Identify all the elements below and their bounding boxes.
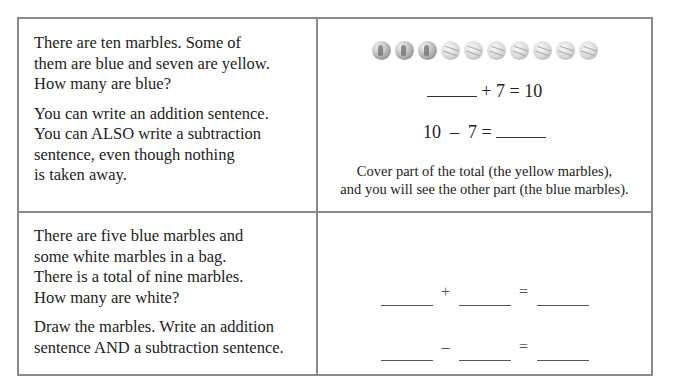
- text-line: them are blue and seven are yellow.: [34, 54, 270, 73]
- problem-1-text-cell: There are ten marbles. Some of them are …: [19, 19, 316, 211]
- text-line: There are ten marbles. Some of: [34, 33, 241, 52]
- text-line: sentence AND a subtraction sentence.: [34, 338, 284, 357]
- yellow-marble-icon: [464, 41, 483, 60]
- problem-1-instruction: You can write an addition sentence. You …: [34, 104, 316, 186]
- answer-blank[interactable]: [381, 304, 433, 306]
- problem-2-text-cell: There are five blue marbles and some whi…: [19, 213, 316, 374]
- yellow-marble-icon: [556, 41, 575, 60]
- text-line: You can write an addition sentence.: [34, 104, 269, 123]
- text-line: There is a total of nine marbles.: [34, 267, 243, 286]
- text-line: How many are white?: [34, 288, 179, 307]
- problem-2-answer-cell: + = – =: [318, 213, 651, 374]
- blue-marble-icon: [372, 41, 391, 60]
- answer-blank[interactable]: [381, 359, 433, 361]
- yellow-marble-icon: [487, 41, 506, 60]
- hint-note: Cover part of the total (the yellow marb…: [318, 162, 651, 198]
- answer-blank[interactable]: [537, 359, 589, 361]
- yellow-marble-icon: [579, 41, 598, 60]
- problem-2-instruction: Draw the marbles. Write an addition sent…: [34, 317, 316, 358]
- yellow-marble-icon: [441, 41, 460, 60]
- text-line: sentence, even though nothing: [34, 145, 235, 164]
- addition-sentence: + 7 = 10: [318, 81, 651, 102]
- text-line: and you will see the other part (the blu…: [340, 181, 628, 197]
- answer-blank[interactable]: [537, 304, 589, 306]
- problem-1-question: There are ten marbles. Some of them are …: [34, 33, 316, 95]
- minus-sign: –: [439, 339, 453, 355]
- blue-marble-icon: [395, 41, 414, 60]
- text-line: There are five blue marbles and: [34, 226, 243, 245]
- subtraction-text: 10 – 7 =: [423, 122, 492, 142]
- text-line: some white marbles in a bag.: [34, 247, 226, 266]
- marble-row: [318, 41, 651, 60]
- subtraction-sentence: 10 – 7 =: [318, 122, 651, 143]
- text-line: Cover part of the total (the yellow marb…: [357, 163, 612, 179]
- text-line: How many are blue?: [34, 74, 171, 93]
- answer-blank[interactable]: [459, 304, 511, 306]
- text-line: Draw the marbles. Write an addition: [34, 317, 274, 336]
- addition-sentence-blanks: + =: [318, 292, 651, 308]
- text-line: is taken away.: [34, 165, 127, 184]
- problem-2-question: There are five blue marbles and some whi…: [34, 226, 316, 308]
- equals-sign: =: [517, 339, 531, 355]
- yellow-marble-icon: [510, 41, 529, 60]
- text-line: You can ALSO write a subtraction: [34, 124, 261, 143]
- answer-blank[interactable]: [459, 359, 511, 361]
- problem-1-illustration-cell: + 7 = 10 10 – 7 = Cover part of the tota…: [318, 19, 651, 211]
- subtraction-sentence-blanks: – =: [318, 347, 651, 363]
- blue-marble-icon: [418, 41, 437, 60]
- addition-text: + 7 = 10: [481, 81, 542, 101]
- answer-blank[interactable]: [496, 123, 546, 138]
- worksheet-table: There are ten marbles. Some of them are …: [17, 17, 653, 376]
- yellow-marble-icon: [533, 41, 552, 60]
- equals-sign: =: [517, 284, 531, 300]
- answer-blank[interactable]: [427, 82, 477, 97]
- plus-sign: +: [439, 284, 453, 300]
